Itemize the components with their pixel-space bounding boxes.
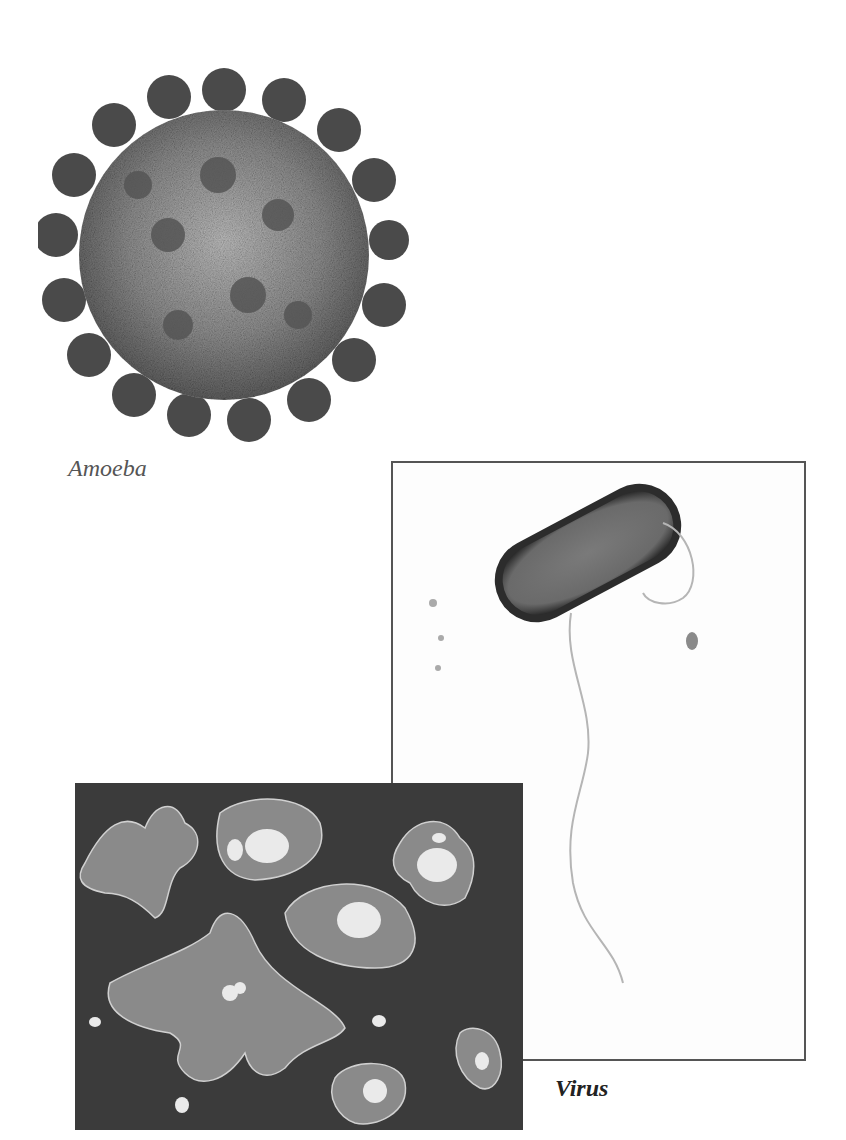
virus-illustration [38,65,410,445]
virus-particle-image [38,65,410,445]
amoeba-illustration [75,783,523,1130]
amoeba-cells-image [75,783,523,1130]
caption-label-amoeba: Amoeba [68,455,147,482]
caption-label-virus: Virus [555,1075,608,1102]
